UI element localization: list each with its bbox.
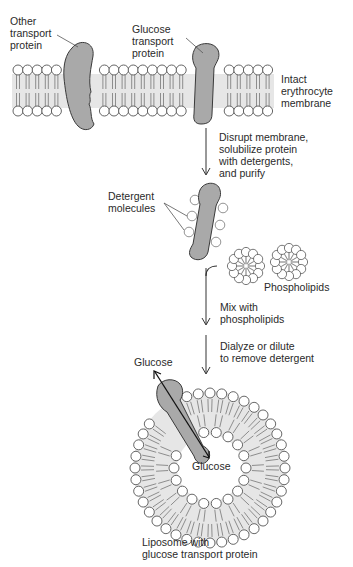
label-phospholipids: Phospholipids	[264, 281, 329, 293]
label-liposome-caption: Liposome with glucose transport protein	[142, 536, 258, 560]
label-glucose-transport-protein: Glucose transport protein	[132, 23, 173, 59]
phospholipid-micelle-1	[227, 247, 264, 284]
solubilized-protein	[164, 183, 228, 259]
other-transport-protein-shape	[64, 42, 94, 129]
label-step-disrupt: Disrupt membrane, solubilize protein wit…	[219, 131, 308, 179]
diagram-canvas: Other transport protein Glucose transpor…	[0, 0, 353, 567]
label-step-mix: Mix with phospholipids	[220, 301, 284, 325]
label-glucose-outside: Glucose	[134, 356, 173, 368]
intact-membrane	[12, 65, 274, 116]
label-other-transport-protein: Other transport protein	[10, 15, 51, 51]
label-glucose-inside: Glucose	[192, 460, 231, 472]
phospholipid-micelle-2	[270, 243, 307, 280]
label-intact-membrane: Intact erythrocyte membrane	[281, 73, 333, 109]
label-step-dialyze: Dialyze or dilute to remove detergent	[220, 340, 314, 364]
label-detergent-molecules: Detergent molecules	[108, 190, 155, 214]
